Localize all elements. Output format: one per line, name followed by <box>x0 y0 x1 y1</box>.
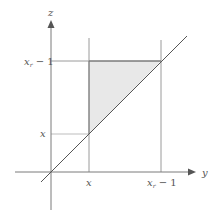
horizontal-axis-arrow-icon <box>188 169 196 176</box>
diagram-canvas: z y xr − 1 x x xr − 1 <box>0 0 221 221</box>
vertical-axis-label: z <box>47 7 54 18</box>
horizontal-tick-label-x: x <box>86 177 92 188</box>
horizontal-tick-label-xr-minus-1: xr − 1 <box>147 177 177 189</box>
horizontal-axis-label: y <box>201 167 208 178</box>
vertical-axis-arrow-icon <box>48 20 55 28</box>
vertical-tick-label-xr-minus-1: xr − 1 <box>24 56 54 68</box>
vertical-tick-label-x: x <box>40 128 46 139</box>
diagonal-line <box>41 36 187 182</box>
